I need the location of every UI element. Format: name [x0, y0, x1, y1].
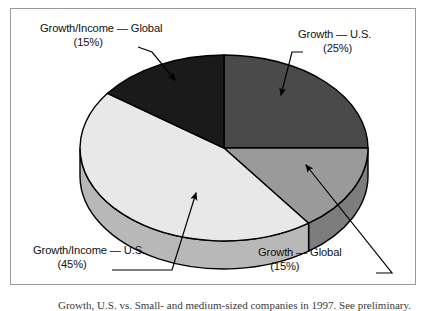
label-growth-income-global-name: Growth/Income — Global: [40, 22, 162, 34]
label-growth-income-us: Growth/Income — U.S. (45%): [33, 244, 145, 271]
label-growth-us-name: Growth — U.S.: [298, 28, 371, 40]
label-growth-global-percent: (15%): [258, 260, 342, 274]
label-growth-us: Growth — U.S. (25%): [298, 28, 371, 55]
label-growth-global: Growth — Global (15%): [258, 246, 342, 273]
label-growth-global-name: Growth — Global: [258, 246, 342, 258]
label-growth-income-us-name: Growth/Income — U.S.: [33, 244, 145, 256]
figure-caption: Growth, U.S. vs. Small- and medium-sized…: [58, 299, 418, 311]
slice-growth-u-s: [224, 55, 368, 148]
label-growth-income-global-percent: (15%): [40, 36, 162, 50]
label-growth-income-us-percent: (45%): [33, 258, 145, 272]
label-growth-income-global: Growth/Income — Global (15%): [40, 22, 162, 49]
label-growth-us-percent: (25%): [298, 42, 371, 56]
